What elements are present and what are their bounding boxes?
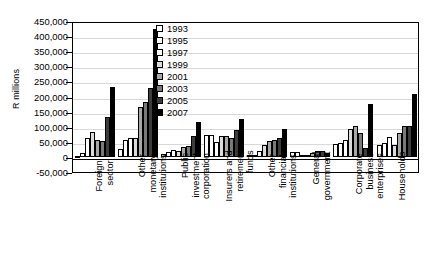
x-category: Corporatebusinessenterprises	[332, 176, 375, 264]
legend-item: 2003	[156, 83, 188, 93]
legend-item: 1995	[156, 35, 188, 45]
legend: 19931995199719992001200320052007	[156, 23, 188, 118]
x-axis-category-labels: ForeignsectorOthermonetaryinstitutionsPu…	[72, 176, 419, 264]
bar-group-bars	[289, 23, 332, 172]
legend-label: 2003	[167, 84, 188, 93]
bar	[412, 94, 417, 157]
legend-label: 2005	[167, 96, 188, 105]
x-category-label-line: Households	[397, 152, 408, 201]
legend-swatch	[156, 61, 163, 68]
legend-item: 1993	[156, 23, 188, 33]
x-category: Households	[376, 176, 419, 264]
y-tick-mark	[66, 173, 72, 174]
y-tick-label: 0	[10, 153, 68, 162]
x-category-label-line: financial	[278, 154, 289, 197]
legend-swatch	[156, 109, 163, 116]
bar	[368, 104, 373, 157]
x-category-label-line: sector	[104, 160, 115, 191]
y-tick-label: 350,000	[10, 47, 68, 56]
bar-group	[116, 23, 159, 172]
y-tick-label: 100,000	[10, 123, 68, 132]
x-category-label-line: Foreign	[94, 160, 105, 191]
x-category: Publicinvestmentcorporation	[159, 176, 202, 264]
x-category-label: Foreignsector	[94, 160, 115, 191]
x-category-label-line: General	[311, 152, 322, 201]
legend-label: 1999	[167, 60, 188, 69]
x-category-label-line: monetary	[148, 154, 159, 197]
y-tick-label: 200,000	[10, 93, 68, 102]
bar	[282, 129, 287, 157]
x-category-label-line: business	[364, 153, 375, 198]
bar	[196, 122, 201, 156]
legend-item: 1997	[156, 47, 188, 57]
x-category-label-line: Other	[137, 154, 148, 197]
y-tick-label: 300,000	[10, 62, 68, 71]
legend-item: 2005	[156, 96, 188, 106]
x-category-label-line: Insurers and	[224, 150, 235, 201]
bar-group-bars	[375, 23, 418, 172]
legend-swatch	[156, 85, 163, 92]
y-tick-label: 250,000	[10, 77, 68, 86]
x-category-label: Generalgovernment	[311, 152, 332, 201]
x-category-label-line: Public	[180, 153, 191, 199]
x-category-label-line: Corporate	[354, 153, 365, 198]
x-category: Otherfinancialinstitutions	[246, 176, 289, 264]
legend-item: 1999	[156, 59, 188, 69]
legend-label: 1993	[167, 24, 188, 33]
x-category: Foreignsector	[72, 176, 115, 264]
y-tick-label: 450,000	[10, 17, 68, 26]
bar-group	[375, 23, 418, 172]
legend-label: 2007	[167, 108, 188, 117]
legend-item: 2001	[156, 71, 188, 81]
bar-group	[289, 23, 332, 172]
x-category-label: Households	[397, 152, 408, 201]
legend-swatch	[156, 25, 163, 32]
bar-group-bars	[73, 23, 116, 172]
y-tick-label: 50,000	[10, 138, 68, 147]
legend-swatch	[156, 37, 163, 44]
x-category: Othermonetaryinstitutions	[115, 176, 158, 264]
legend-label: 2001	[167, 72, 188, 81]
legend-swatch	[156, 49, 163, 56]
bar-chart: R millions 450,000400,000350,000300,0002…	[0, 0, 439, 264]
y-tick-label: 150,000	[10, 108, 68, 117]
y-tick-label: -50,000	[10, 168, 68, 177]
x-category-label-line: investment	[191, 153, 202, 199]
bar	[110, 87, 115, 156]
legend-label: 1997	[167, 48, 188, 57]
x-category-label-line: retirement	[234, 150, 245, 201]
x-category: Generalgovernment	[289, 176, 332, 264]
x-category-label-line: government	[321, 152, 332, 201]
legend-item: 2007	[156, 108, 188, 118]
bar-group-bars	[116, 23, 159, 172]
x-category-label-line: Other	[267, 154, 278, 197]
bar-group	[332, 23, 375, 172]
bar-group	[73, 23, 116, 172]
bar-group-bars	[332, 23, 375, 172]
legend-swatch	[156, 97, 163, 104]
legend-swatch	[156, 73, 163, 80]
x-category: Insurers andretirementfunds	[202, 176, 245, 264]
y-tick-label: 400,000	[10, 32, 68, 41]
legend-label: 1995	[167, 36, 188, 45]
